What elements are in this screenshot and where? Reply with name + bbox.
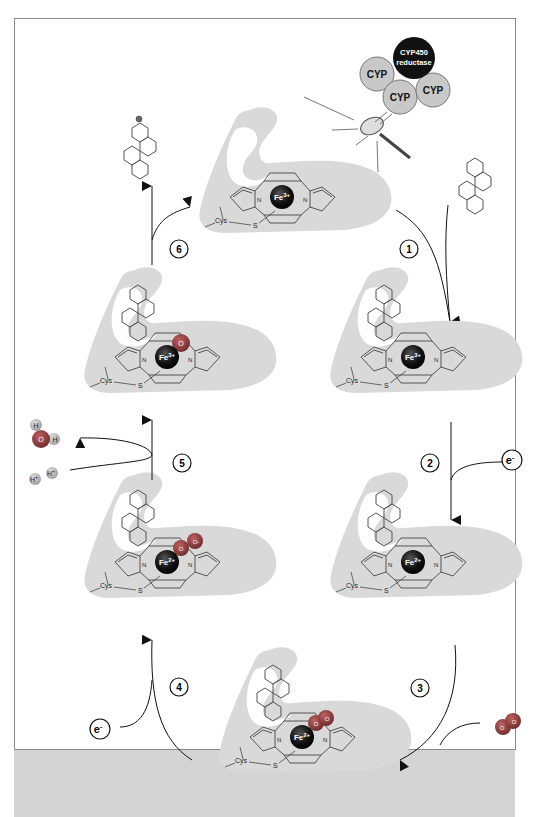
- svg-text:5: 5: [179, 458, 185, 469]
- reductase-label-2: reductase: [396, 58, 431, 67]
- state-peroxo: O O- Fe2+: [84, 472, 276, 598]
- protons: H+ H+: [29, 467, 58, 485]
- electron-badge-4: e-: [90, 719, 110, 739]
- state-reduced: Fe2+: [330, 472, 522, 598]
- arrow-step-4: [152, 640, 192, 760]
- substrate-chrysene: [459, 158, 491, 214]
- svg-text:4: 4: [176, 682, 182, 693]
- step-1-badge: 1: [400, 240, 418, 258]
- svg-text:O: O: [179, 546, 184, 552]
- enzyme-cluster: CYP450 reductase CYP CYP CYP: [304, 37, 450, 172]
- hydroxyl-marker-icon: [136, 116, 142, 122]
- state-oxy: O O Fe2+: [219, 647, 411, 773]
- step-4-badge: 4: [170, 678, 188, 696]
- arrow-step-1: [396, 210, 450, 322]
- step-5-badge: 5: [173, 454, 191, 472]
- svg-text:H: H: [33, 422, 38, 429]
- svg-text:O: O: [38, 436, 44, 443]
- step-3-badge: 3: [411, 679, 429, 697]
- svg-text:H: H: [52, 436, 57, 443]
- dioxygen-molecule: O O: [495, 713, 521, 735]
- svg-text:O: O: [500, 725, 505, 731]
- water-molecule: H O H: [30, 419, 60, 448]
- svg-text:O-: O-: [193, 539, 200, 545]
- svg-text:3: 3: [417, 683, 423, 694]
- reductase-label: CYP450: [400, 48, 428, 57]
- svg-text:O: O: [314, 721, 319, 727]
- arrow-water-release: [70, 438, 152, 470]
- svg-text:1: 1: [406, 244, 412, 255]
- svg-text:O: O: [512, 719, 517, 725]
- svg-text:O: O: [178, 340, 184, 347]
- svg-text:2: 2: [427, 458, 433, 469]
- electron-badge-2: e-: [502, 450, 522, 470]
- cyp-label: CYP: [367, 69, 388, 80]
- cyp-label: CYP: [423, 85, 444, 96]
- step-6-badge: 6: [170, 240, 188, 258]
- svg-text:O: O: [325, 716, 330, 722]
- step-2-badge: 2: [421, 454, 439, 472]
- state-oxo: O Fe3+: [84, 267, 276, 393]
- state-substrate-bound: Fe3+: [330, 267, 522, 393]
- svg-text:6: 6: [176, 244, 182, 255]
- product-hydroxylated-chrysene: [124, 116, 156, 179]
- cyp-label: CYP: [390, 92, 411, 103]
